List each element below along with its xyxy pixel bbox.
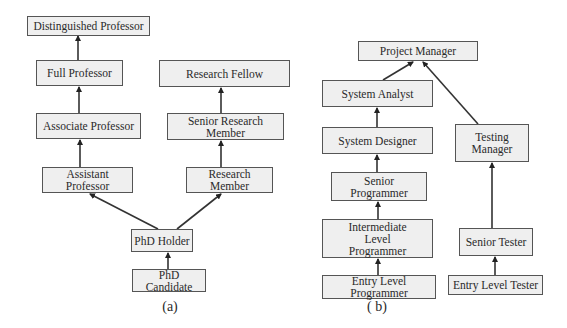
node-intermediate-level-programmer: Intermediate Level Programmer xyxy=(322,219,433,258)
node-entry-level-programmer: Entry Level Programmer xyxy=(322,275,436,299)
caption-a: (a) xyxy=(150,299,190,315)
node-entry-level-tester: Entry Level Tester xyxy=(448,275,543,295)
edge-analyst-to-pm xyxy=(383,62,413,80)
node-research-member: Research Member xyxy=(186,167,273,193)
node-phd-candidate: PhD Candidate xyxy=(132,269,206,292)
node-senior-programmer: Senior Programmer xyxy=(331,172,427,201)
node-assistant-professor: Assistant Professor xyxy=(42,167,133,193)
node-full-professor: Full Professor xyxy=(36,60,123,86)
node-distinguished-professor: Distinguished Professor xyxy=(27,16,150,36)
node-system-designer: System Designer xyxy=(322,127,433,154)
node-project-manager: Project Manager xyxy=(358,41,478,61)
edge-holder-to-rm xyxy=(177,194,221,229)
caption-b: ( b) xyxy=(357,299,397,315)
node-testing-manager: Testing Manager xyxy=(455,124,529,162)
node-phd-holder: PhD Holder xyxy=(131,229,193,252)
node-senior-research-member: Senior Research Member xyxy=(167,113,284,140)
career-path-diagrams: Distinguished Professor Full Professor A… xyxy=(0,0,567,328)
edge-holder-to-assistant xyxy=(90,194,158,229)
node-research-fellow: Research Fellow xyxy=(159,60,290,87)
node-senior-tester: Senior Tester xyxy=(459,228,533,256)
node-associate-professor: Associate Professor xyxy=(36,113,141,139)
node-system-analyst: System Analyst xyxy=(322,80,433,107)
